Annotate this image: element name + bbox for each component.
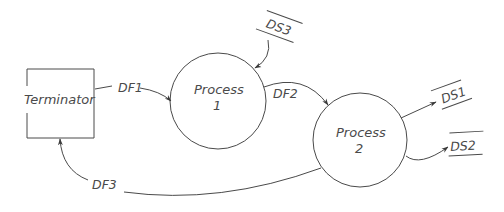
flow-process-2-to-ds1 [401,102,436,118]
flow-df3: DF3 [60,139,321,195]
data-store-ds2: DS2 [447,131,484,156]
flow-process-2-to-ds2 [406,147,448,160]
df1-label: DF1 [118,80,143,95]
flow-ds3-to-process-1 [255,40,269,68]
ds2-label: DS2 [450,138,476,154]
flow-df2: DF2 [264,82,328,105]
df3-label: DF3 [92,177,117,192]
process-2-label: Process [336,125,386,140]
ds1-label: DS1 [439,84,468,107]
process-1-label: Process [194,82,244,97]
process-2: Process 2 [313,93,407,187]
process-1-number: 1 [213,98,221,113]
data-flow-diagram: Terminator Process 1 Process 2 DS3 DS1 D… [0,0,504,212]
process-1: Process 1 [170,53,266,149]
flow-df1: DF1 [95,80,171,101]
data-store-ds1: DS1 [431,79,472,111]
process-2-number: 2 [355,141,363,156]
df2-label: DF2 [273,86,298,101]
data-store-ds3: DS3 [256,9,303,43]
terminator-label: Terminator [24,92,96,107]
terminator: Terminator [24,69,96,138]
